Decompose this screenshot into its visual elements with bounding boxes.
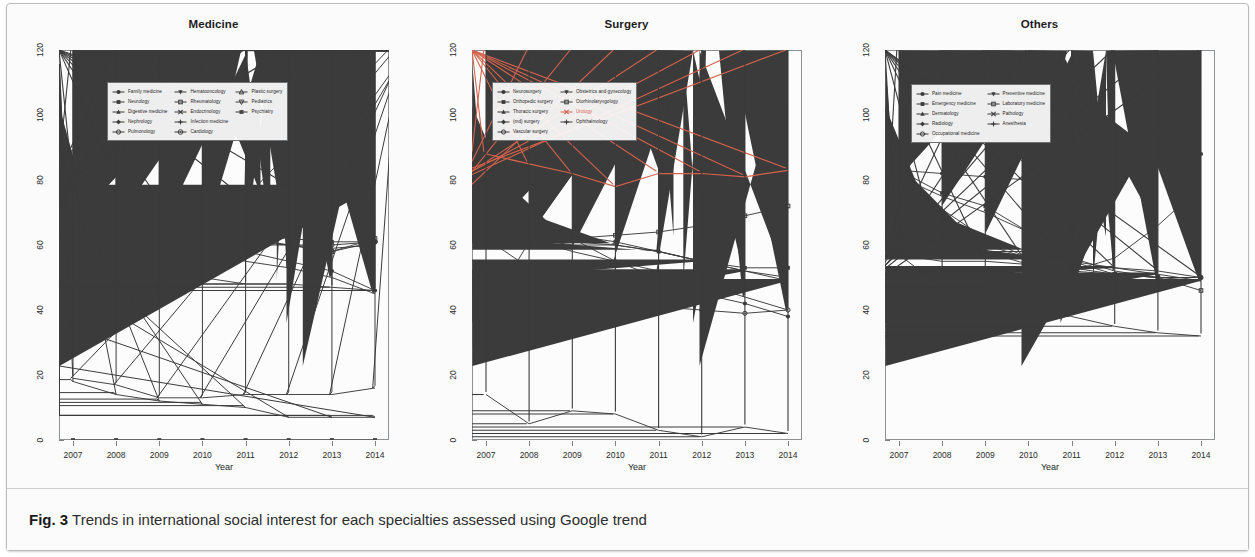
legend-item: Pediatrics: [235, 97, 282, 106]
legend-marker-icon: [560, 108, 573, 116]
x-tick-mark: [1072, 441, 1073, 446]
x-tick: 2013: [725, 450, 765, 460]
x-tick-mark: [486, 441, 487, 446]
legend-marker-icon: [235, 108, 248, 116]
legend-marker-icon: [112, 108, 125, 116]
legend-marker-icon: [497, 128, 510, 136]
legend-marker-icon: [916, 130, 929, 138]
y-tick: 40: [847, 305, 885, 315]
legend-label: Plastic surgery: [251, 87, 282, 96]
legend-column: HematooncologyRheumatologyEndocrinologyI…: [174, 87, 228, 136]
legend-item: Vascular surgery: [497, 127, 553, 136]
legend-marker-icon: [174, 98, 187, 106]
x-tick: 2010: [595, 450, 635, 460]
legend-label: Nephrology: [128, 117, 152, 126]
legend-marker-icon: [112, 118, 125, 126]
legend-item: Laboratory medicine: [987, 99, 1046, 108]
x-tick: 2011: [1052, 450, 1092, 460]
legend-label: Hematooncology: [190, 87, 225, 96]
legend-label: Digestive medicine: [128, 107, 167, 116]
x-tick-mark: [659, 441, 660, 446]
x-tick-mark: [159, 441, 160, 446]
legend-marker-icon: [497, 118, 510, 126]
legend-column: NeurosurgeryOrthopedic surgeryThoracic s…: [497, 87, 553, 136]
figure-caption-text: Trends in international social interest …: [72, 511, 647, 528]
y-tick: 80: [434, 175, 472, 185]
legend-item: Urology: [560, 107, 631, 116]
legend-item: Pathology: [987, 109, 1046, 118]
x-tick: 2010: [1008, 450, 1048, 460]
legend-marker-icon: [987, 100, 1000, 108]
y-tick: 0: [434, 435, 472, 445]
y-tick: 40: [21, 305, 59, 315]
legend-item: Family medicine: [112, 87, 167, 96]
legend-item: Thoracic surgery: [497, 107, 553, 116]
y-tick: 40: [434, 305, 472, 315]
x-tick-mark: [529, 441, 530, 446]
legend-item: Orthopedic surgery: [497, 97, 553, 106]
x-axis-label-others: Year: [885, 462, 1215, 472]
legend-marker-icon: [560, 118, 573, 126]
legend-marker-icon: [560, 88, 573, 96]
y-tick: 0: [847, 435, 885, 445]
legend-item: Cardiology: [174, 127, 228, 136]
panel-others: Others 020406080100120 20072008200920102…: [833, 10, 1246, 488]
x-tick-mark: [572, 441, 573, 446]
x-tick-mark: [899, 441, 900, 446]
legend-label: Infection medicine: [190, 117, 228, 126]
x-tick: 2014: [768, 450, 808, 460]
legend-marker-icon: [987, 110, 1000, 118]
y-tick: 20: [434, 370, 472, 380]
y-tick: 20: [847, 370, 885, 380]
x-tick: 2011: [639, 450, 679, 460]
legend-label: Neurology: [128, 97, 149, 106]
x-tick-mark: [202, 441, 203, 446]
legend-label: Urology: [576, 107, 592, 116]
legend-label: Rheumatology: [190, 97, 220, 106]
legend-label: (md) surgery: [513, 117, 540, 126]
x-tick: 2009: [139, 450, 179, 460]
legend-marker-icon: [174, 108, 187, 116]
y-tick: 60: [434, 240, 472, 250]
legend-item: Neurosurgery: [497, 87, 553, 96]
legend-marker-icon: [174, 88, 187, 96]
legend-marker-icon: [916, 90, 929, 98]
legend-label: Ophthalmology: [576, 117, 608, 126]
x-axis-label-medicine: Year: [59, 462, 389, 472]
legend-item: Anesthesia: [987, 119, 1046, 128]
legend-label: Radiology: [932, 119, 953, 128]
figure-caption-bar: Fig. 3 Trends in international social in…: [7, 488, 1248, 550]
legend-surgery: NeurosurgeryOrthopedic surgeryThoracic s…: [492, 82, 637, 141]
legend-label: Occupational medicine: [932, 129, 980, 138]
legend-marker-icon: [916, 110, 929, 118]
legend-label: Anesthesia: [1003, 119, 1026, 128]
figure-caption: Fig. 3 Trends in international social in…: [7, 510, 667, 530]
y-axis-others: 020406080100120: [847, 50, 885, 440]
legend-label: Neurosurgery: [513, 87, 541, 96]
x-tick-mark: [116, 441, 117, 446]
legend-item: Pain medicine: [916, 89, 980, 98]
x-tick-mark: [942, 441, 943, 446]
x-tick-mark: [1115, 441, 1116, 446]
legend-marker-icon: [916, 100, 929, 108]
legend-item: Plastic surgery: [235, 87, 282, 96]
x-tick-mark: [289, 441, 290, 446]
panel-title-medicine: Medicine: [7, 18, 420, 30]
legend-label: Dermatology: [932, 109, 959, 118]
legend-label: Laboratory medicine: [1003, 99, 1046, 108]
legend-item: Pulmonology: [112, 127, 167, 136]
legend-column: Family medicineNeurologyDigestive medici…: [112, 87, 167, 136]
x-tick: 2007: [879, 450, 919, 460]
legend-item: Dermatology: [916, 109, 980, 118]
x-tick: 2008: [509, 450, 549, 460]
y-tick: 60: [21, 240, 59, 250]
x-tick-mark: [246, 441, 247, 446]
legend-label: Obstetrics and gynecology: [576, 87, 631, 96]
legend-item: Psychiatry: [235, 107, 282, 116]
x-tick: 2007: [53, 450, 93, 460]
legend-item: Otorhinolaryngology: [560, 97, 631, 106]
legend-item: Infection medicine: [174, 117, 228, 126]
y-tick: 120: [21, 45, 59, 55]
y-tick: 120: [434, 45, 472, 55]
legend-item: Occupational medicine: [916, 129, 980, 138]
